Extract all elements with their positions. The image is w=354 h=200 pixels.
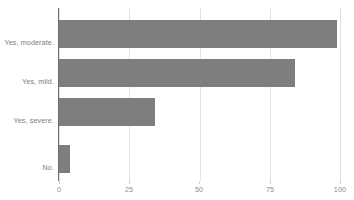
x-tick-label-0: 0	[57, 185, 61, 194]
bar-yes-mild	[59, 59, 295, 87]
bar-no	[59, 145, 70, 173]
tick-mark-25	[129, 181, 130, 184]
category-label-yes-mild: Yes, mild.	[22, 77, 54, 86]
bar-chart: Yes, moderate. Yes, mild. Yes, severe. N…	[0, 0, 354, 200]
tick-mark-75	[270, 181, 271, 184]
tick-mark-50	[199, 181, 200, 184]
y-axis-line	[58, 8, 59, 181]
bar-yes-severe	[59, 98, 155, 126]
plot-area	[59, 8, 340, 181]
category-label-yes-severe: Yes, severe.	[14, 116, 55, 125]
category-label-no: No.	[43, 163, 55, 172]
x-tick-label-100: 100	[334, 185, 346, 194]
chart-title-clipped	[0, 0, 354, 5]
tick-mark-100	[340, 181, 341, 184]
category-label-yes-moderate: Yes, moderate.	[5, 38, 54, 47]
category-axis-labels: Yes, moderate. Yes, mild. Yes, severe. N…	[0, 8, 54, 181]
gridline-100	[340, 8, 341, 181]
tick-mark-0	[59, 181, 60, 184]
x-tick-label-25: 25	[125, 185, 133, 194]
x-tick-label-50: 50	[195, 185, 203, 194]
x-tick-label-75: 75	[266, 185, 274, 194]
bar-yes-moderate	[59, 20, 337, 48]
